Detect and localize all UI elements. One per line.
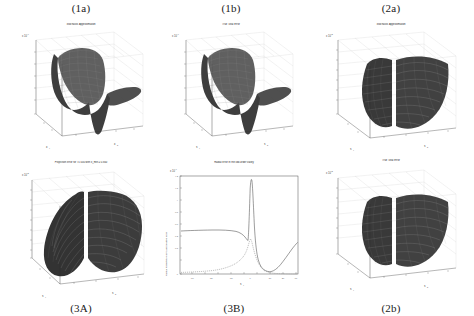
surface-plot-1a: x 1 x 2 xyxy=(6,2,156,154)
svg-text:-60: -60 xyxy=(190,277,194,280)
tick-labels-x-3B: -60 -40 -20 0 20 40 60 xyxy=(190,277,298,280)
svg-text:1: 1 xyxy=(177,199,179,202)
panel-2a: (2a) Stochastic Approximation x 10-3 xyxy=(312,2,470,154)
svg-text:x: x xyxy=(350,147,352,151)
svg-text:0.8: 0.8 xyxy=(175,211,179,214)
svg-text:0.2: 0.2 xyxy=(175,247,179,250)
surface-plot-3A: x 1 x 2 xyxy=(6,158,156,314)
svg-text:1: 1 xyxy=(353,149,354,151)
svg-text:x: x xyxy=(46,145,48,149)
panel-2b: True Total Error x 10-3 xyxy=(312,158,470,314)
svg-text:-20: -20 xyxy=(229,277,233,280)
panel-3A: Projection error for 75 000 with x_min =… xyxy=(6,158,156,314)
panel-label-2b: (2b) xyxy=(312,302,470,314)
svg-text:x: x xyxy=(350,287,352,291)
svg-text:x: x xyxy=(196,145,198,149)
svg-text:x: x xyxy=(112,291,114,295)
svg-text:1: 1 xyxy=(49,147,50,149)
panel-label-3B: (3B) xyxy=(156,302,312,314)
svg-text:2: 2 xyxy=(427,286,428,288)
svg-text:2: 2 xyxy=(115,293,116,295)
figure-canvas: (1a) Stochastic Approximation x 10-4 xyxy=(0,0,474,316)
svg-text:-40: -40 xyxy=(209,277,213,280)
svg-text:x: x xyxy=(424,284,426,288)
svg-text:60: 60 xyxy=(295,277,298,280)
svg-text:x: x xyxy=(240,282,242,286)
svg-text:2: 2 xyxy=(267,144,268,146)
panel-label-3A: (3A) xyxy=(6,302,156,314)
tick-labels-y-3B: 1.4 1.2 1 0.8 0.6 0.4 0.2 0 xyxy=(175,175,179,276)
svg-text:x: x xyxy=(264,142,266,146)
svg-text:2: 2 xyxy=(427,146,428,148)
svg-text:x: x xyxy=(114,142,116,146)
svg-text:x: x xyxy=(42,294,44,298)
surface-plot-2a: x 1 x 2 xyxy=(312,2,470,154)
svg-text:0: 0 xyxy=(249,277,251,280)
svg-text:20: 20 xyxy=(269,277,272,280)
svg-text:2: 2 xyxy=(117,144,118,146)
svg-text:1.4: 1.4 xyxy=(175,175,179,178)
svg-text:40: 40 xyxy=(282,277,285,280)
svg-text:1: 1 xyxy=(243,284,244,286)
panel-1b: (1b) True Total Error x 10-4 xyxy=(156,2,306,154)
svg-text:0.4: 0.4 xyxy=(175,235,179,238)
svg-text:1: 1 xyxy=(199,147,200,149)
svg-text:1: 1 xyxy=(45,296,46,298)
svg-text:1.2: 1.2 xyxy=(175,187,179,190)
svg-text:x: x xyxy=(424,144,426,148)
panel-1a: (1a) Stochastic Approximation x 10-4 xyxy=(6,2,156,154)
line-plot-3B: 1.4 1.2 1 0.8 0.6 0.4 0.2 0 -60 -40 -20 … xyxy=(156,158,312,314)
svg-text:1: 1 xyxy=(353,289,354,291)
svg-text:0.6: 0.6 xyxy=(175,223,179,226)
surface-plot-1b: x 1 x 2 xyxy=(156,2,306,154)
svg-text:0: 0 xyxy=(177,273,179,276)
panel-3B: Radial error in the low-order valley x 1… xyxy=(156,158,312,314)
surface-plot-2b: x 1 x 2 xyxy=(312,158,470,314)
